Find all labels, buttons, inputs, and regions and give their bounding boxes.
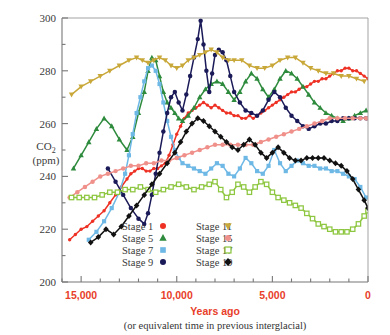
legend-item-stage-19[interactable]: Stage 19 xyxy=(196,257,232,268)
data-point xyxy=(127,153,131,157)
data-point xyxy=(282,132,286,136)
data-point xyxy=(161,129,165,133)
legend-item-stage-9[interactable]: Stage 9 xyxy=(122,257,166,268)
data-point xyxy=(289,113,293,117)
data-point xyxy=(244,156,248,160)
data-point xyxy=(85,195,89,199)
data-point xyxy=(220,50,224,54)
data-point xyxy=(175,156,179,160)
data-point xyxy=(240,117,243,120)
data-point xyxy=(97,214,100,217)
data-point xyxy=(361,79,366,84)
data-point xyxy=(85,225,88,228)
data-point xyxy=(209,106,212,109)
data-point xyxy=(278,95,282,99)
data-point xyxy=(167,154,170,157)
data-point xyxy=(358,116,362,120)
data-point xyxy=(176,182,180,186)
data-point xyxy=(106,166,110,170)
data-point xyxy=(110,206,114,210)
data-point xyxy=(317,80,320,83)
data-point xyxy=(305,211,309,215)
data-point xyxy=(169,95,173,99)
data-point xyxy=(92,195,96,199)
data-point xyxy=(290,90,293,93)
data-point xyxy=(278,161,282,165)
legend-item-stage-17[interactable]: Stage 17 xyxy=(196,245,232,256)
data-point xyxy=(255,169,259,173)
data-point xyxy=(213,103,216,106)
data-point xyxy=(289,129,293,133)
data-point xyxy=(307,164,311,168)
data-point xyxy=(165,111,169,115)
data-point xyxy=(146,66,150,70)
legend-item-stage-5[interactable]: Stage 5 xyxy=(122,233,167,244)
data-point xyxy=(230,190,234,194)
data-point xyxy=(144,169,147,172)
data-point xyxy=(202,101,205,104)
data-point xyxy=(198,169,202,173)
data-point xyxy=(243,108,247,112)
data-point xyxy=(190,150,194,154)
legend-item-stage-15[interactable]: Stage 15 xyxy=(196,233,232,244)
data-point xyxy=(113,179,117,183)
data-point xyxy=(328,74,331,77)
legend-marker xyxy=(160,247,166,253)
data-point xyxy=(318,166,322,170)
legend-item-stage-11[interactable]: Stage 11 xyxy=(196,221,232,232)
data-point xyxy=(310,216,314,220)
data-point xyxy=(129,164,133,168)
data-point xyxy=(201,42,205,46)
x-axis-subtitle: (or equivalent time in previous intergla… xyxy=(124,320,307,332)
data-point xyxy=(327,158,333,164)
data-point xyxy=(144,161,148,165)
data-point xyxy=(351,227,355,231)
series-group xyxy=(67,18,370,245)
data-point xyxy=(236,114,239,117)
data-point xyxy=(359,72,362,75)
data-point xyxy=(221,164,225,168)
plot-area xyxy=(67,18,370,245)
y-axis-title-units: (ppm) xyxy=(33,154,60,167)
data-point xyxy=(315,155,321,161)
data-point xyxy=(351,69,354,72)
data-point xyxy=(335,169,339,173)
x-tick-label: 5,000 xyxy=(259,289,285,301)
data-point xyxy=(261,172,265,176)
data-point xyxy=(79,228,82,231)
data-point xyxy=(336,69,339,72)
data-point xyxy=(169,135,173,139)
data-point xyxy=(324,166,328,170)
data-point xyxy=(186,164,190,168)
data-point xyxy=(362,74,365,77)
data-point xyxy=(284,106,288,110)
data-point xyxy=(225,111,228,114)
data-point xyxy=(249,161,253,165)
data-point xyxy=(333,160,339,166)
data-point xyxy=(343,66,346,69)
data-point xyxy=(282,96,285,99)
data-point xyxy=(91,220,94,223)
data-point xyxy=(121,193,125,197)
data-point xyxy=(252,117,255,120)
data-point xyxy=(142,79,146,83)
data-point xyxy=(305,124,309,128)
data-point xyxy=(182,153,186,157)
data-point xyxy=(328,227,332,231)
data-point xyxy=(161,187,165,191)
data-point xyxy=(138,185,142,189)
data-point xyxy=(108,190,112,194)
legend-item-stage-1[interactable]: Stage 1 xyxy=(122,221,166,232)
data-point xyxy=(184,185,188,189)
legend-item-stage-7[interactable]: Stage 7 xyxy=(122,245,166,256)
x-tick-label: 10,000 xyxy=(161,289,193,301)
data-point xyxy=(113,169,117,173)
data-point xyxy=(197,148,201,152)
data-point xyxy=(259,140,263,144)
data-point xyxy=(213,142,217,146)
data-point xyxy=(299,206,303,210)
data-point xyxy=(238,100,242,104)
data-point xyxy=(161,100,165,104)
data-point xyxy=(355,69,358,72)
legend-label: Stage 1 xyxy=(122,221,153,232)
